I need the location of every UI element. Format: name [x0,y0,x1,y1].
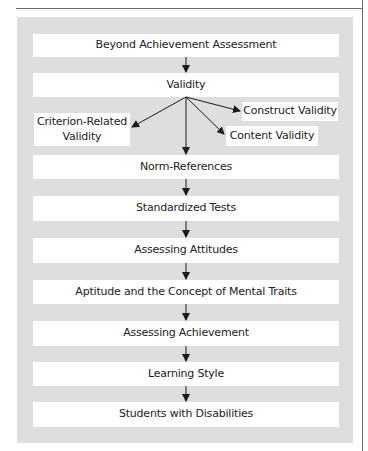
node-criterion-related-validity: Criterion-Related Validity [34,113,130,146]
node-label: Learning Style [148,367,224,382]
node-norm-references: Norm-References [33,155,339,179]
node-standardized-tests: Standardized Tests [33,196,339,221]
node-label-line1: Criterion-Related [37,115,127,130]
node-aptitude-mental-traits: Aptitude and the Concept of Mental Trait… [33,280,339,304]
node-label: Beyond Achievement Assessment [96,38,277,53]
node-label: Norm-References [140,160,232,175]
node-label-line2: Validity [63,130,102,145]
node-construct-validity: Construct Validity [242,102,338,121]
node-label: Content Validity [230,129,314,144]
node-label: Standardized Tests [136,201,236,216]
node-label: Aptitude and the Concept of Mental Trait… [75,285,296,300]
node-beyond-achievement-assessment: Beyond Achievement Assessment [33,34,339,57]
node-label: Students with Disabilities [119,407,253,422]
node-learning-style: Learning Style [33,362,339,386]
side-rule [362,0,363,451]
node-assessing-achievement: Assessing Achievement [33,321,339,346]
node-label: Validity [167,78,206,93]
node-assessing-attitudes: Assessing Attitudes [33,238,339,263]
node-label: Assessing Achievement [123,326,249,341]
node-label: Assessing Attitudes [134,243,238,258]
node-validity: Validity [33,73,339,97]
node-label: Construct Validity [243,104,337,119]
node-students-with-disabilities: Students with Disabilities [33,402,339,427]
top-rule [16,8,362,9]
node-content-validity: Content Validity [226,126,318,146]
